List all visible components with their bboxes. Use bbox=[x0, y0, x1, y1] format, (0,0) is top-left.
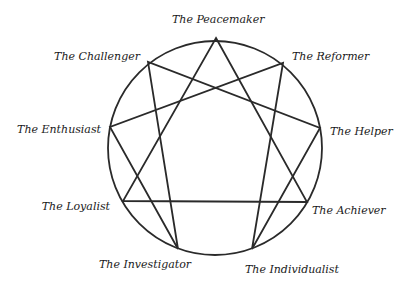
enneagram-figure bbox=[0, 0, 396, 297]
label-enthusiast: The Enthusiast bbox=[17, 124, 101, 136]
label-peacemaker: The Peacemaker bbox=[172, 14, 265, 26]
label-reformer: The Reformer bbox=[292, 51, 369, 63]
label-challenger: The Challenger bbox=[54, 51, 140, 63]
label-investigator: The Investigator bbox=[99, 259, 191, 271]
inner-hexad bbox=[110, 62, 320, 249]
label-loyalist: The Loyalist bbox=[42, 201, 110, 213]
outer-circle bbox=[108, 41, 322, 255]
label-helper: The Helper bbox=[330, 126, 393, 138]
enneagram-diagram: The Peacemaker The Challenger The Reform… bbox=[0, 0, 396, 297]
label-individualist: The Individualist bbox=[245, 264, 339, 276]
label-achiever: The Achiever bbox=[312, 205, 386, 217]
